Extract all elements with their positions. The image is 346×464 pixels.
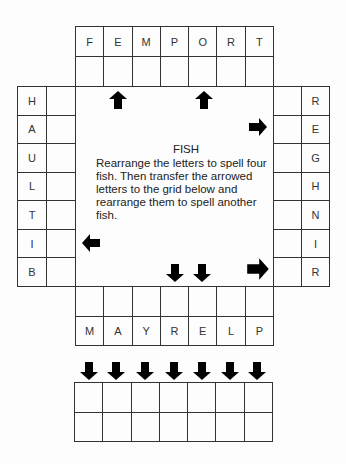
left-letter-cell: T [18, 201, 47, 230]
bottom-letter-grid: M A Y R E L P [75, 286, 274, 346]
left-letter-grid: H A U L T I B [17, 86, 76, 287]
bottom-letter-cell: M [76, 317, 104, 347]
final-answer-cell[interactable] [132, 383, 160, 413]
top-answer-cell[interactable] [104, 57, 132, 87]
arrow-down-icon [135, 361, 155, 381]
arrow-left-icon [81, 233, 101, 253]
final-answer-cell[interactable] [245, 383, 273, 413]
arrow-up-icon [108, 90, 128, 110]
final-answer-cell[interactable] [75, 383, 103, 413]
bottom-letter-cell: P [246, 317, 274, 347]
arrow-down-icon [247, 361, 267, 381]
left-letter-cell: I [18, 230, 47, 259]
right-letter-cell: N [302, 201, 330, 230]
instructions-block: FISH Rearrange the letters to spell four… [96, 143, 276, 222]
final-answer-cell[interactable] [103, 383, 131, 413]
bottom-letter-cell: Y [133, 317, 161, 347]
top-letter-cell: R [217, 27, 245, 57]
final-answer-cell[interactable] [160, 413, 188, 443]
left-answer-cell[interactable] [47, 173, 76, 202]
final-answer-cell[interactable] [103, 413, 131, 443]
top-answer-cell[interactable] [189, 57, 217, 87]
top-letter-cell: P [161, 27, 189, 57]
right-answer-cell[interactable] [274, 201, 302, 230]
arrow-down-icon [220, 361, 240, 381]
bottom-letter-cell: A [104, 317, 132, 347]
right-answer-cell[interactable] [274, 258, 302, 287]
left-answer-cell[interactable] [47, 258, 76, 287]
top-answer-cell[interactable] [246, 57, 274, 87]
puzzle-title: FISH [96, 143, 276, 156]
bottom-letter-cell: R [161, 317, 189, 347]
bottom-letter-cell: E [189, 317, 217, 347]
right-letter-cell: H [302, 173, 330, 202]
puzzle-instructions: Rearrange the letters to spell four fish… [96, 157, 267, 221]
right-letter-cell: R [302, 258, 330, 287]
left-answer-cell[interactable] [47, 201, 76, 230]
right-letter-cell: G [302, 144, 330, 173]
final-answer-cell[interactable] [216, 413, 244, 443]
arrow-right-icon [246, 257, 270, 281]
top-letter-cell: O [189, 27, 217, 57]
left-answer-cell[interactable] [47, 144, 76, 173]
final-answer-cell[interactable] [160, 383, 188, 413]
top-answer-cell[interactable] [133, 57, 161, 87]
top-letter-grid: F E M P O R T [75, 26, 274, 87]
bottom-answer-cell[interactable] [246, 287, 274, 317]
final-answer-grid [74, 382, 273, 442]
bottom-answer-cell[interactable] [217, 287, 245, 317]
arrow-right-icon [248, 117, 268, 137]
final-answer-cell[interactable] [245, 413, 273, 443]
right-letter-grid: R E G H N I R [273, 86, 330, 287]
right-answer-cell[interactable] [274, 230, 302, 259]
left-answer-cell[interactable] [47, 116, 76, 145]
left-letter-cell: B [18, 258, 47, 287]
final-answer-cell[interactable] [188, 383, 216, 413]
final-answer-cell[interactable] [75, 413, 103, 443]
top-letter-cell: T [246, 27, 274, 57]
top-answer-cell[interactable] [161, 57, 189, 87]
arrow-down-icon [165, 263, 185, 283]
top-letter-cell: F [76, 27, 104, 57]
bottom-answer-cell[interactable] [189, 287, 217, 317]
final-answer-cell[interactable] [188, 413, 216, 443]
bottom-answer-cell[interactable] [133, 287, 161, 317]
left-answer-cell[interactable] [47, 87, 76, 116]
right-answer-cell[interactable] [274, 173, 302, 202]
arrow-down-icon [106, 361, 126, 381]
top-letter-cell: M [133, 27, 161, 57]
final-answer-cell[interactable] [216, 383, 244, 413]
arrow-down-icon [164, 361, 184, 381]
bottom-answer-cell[interactable] [161, 287, 189, 317]
right-letter-cell: E [302, 116, 330, 145]
right-answer-cell[interactable] [274, 87, 302, 116]
left-letter-cell: H [18, 87, 47, 116]
arrow-down-icon [192, 361, 212, 381]
top-letter-cell: E [104, 27, 132, 57]
left-letter-cell: L [18, 173, 47, 202]
arrow-down-icon [192, 263, 212, 283]
left-answer-cell[interactable] [47, 230, 76, 259]
right-answer-cell[interactable] [274, 116, 302, 145]
top-answer-cell[interactable] [76, 57, 104, 87]
arrow-up-icon [194, 90, 214, 110]
arrow-down-icon [79, 361, 99, 381]
bottom-answer-cell[interactable] [76, 287, 104, 317]
right-letter-cell: R [302, 87, 330, 116]
top-answer-cell[interactable] [217, 57, 245, 87]
right-letter-cell: I [302, 230, 330, 259]
left-letter-cell: U [18, 144, 47, 173]
bottom-answer-cell[interactable] [104, 287, 132, 317]
final-answer-cell[interactable] [132, 413, 160, 443]
left-letter-cell: A [18, 116, 47, 145]
right-answer-cell[interactable] [274, 144, 302, 173]
bottom-letter-cell: L [217, 317, 245, 347]
